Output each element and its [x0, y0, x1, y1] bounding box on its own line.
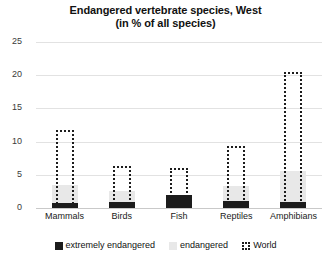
bar-world: [284, 72, 302, 208]
bar-group: [36, 42, 93, 208]
legend-label: World: [253, 240, 276, 251]
bar-extremely-endangered: [166, 195, 192, 208]
bar-group: [93, 42, 150, 208]
x-label-amphibians: Amphibians: [265, 211, 322, 222]
y-tick-label-10: 10: [0, 137, 22, 146]
gridline-0: [36, 208, 322, 209]
bar-world: [56, 130, 74, 208]
bar-extremely-endangered: [223, 201, 249, 208]
chart-title: Endangered vertebrate species, West (in …: [0, 4, 331, 30]
x-axis-category-labels: MammalsBirdsFishReptilesAmphibians: [36, 211, 322, 227]
plot-area: 0510152025: [36, 42, 322, 208]
legend-item[interactable]: World: [242, 240, 276, 251]
legend-item[interactable]: extremely endangered: [55, 240, 156, 251]
bar-world: [227, 146, 245, 208]
bar-extremely-endangered: [52, 203, 78, 208]
bar-group: [150, 42, 207, 208]
x-label-reptiles: Reptiles: [208, 211, 265, 222]
x-label-birds: Birds: [93, 211, 150, 222]
bar-extremely-endangered: [109, 202, 135, 208]
x-label-mammals: Mammals: [36, 211, 93, 222]
y-tick-label-15: 15: [0, 103, 22, 112]
legend-swatch-icon: [242, 242, 250, 250]
y-tick-label-25: 25: [0, 37, 22, 46]
chart-title-line-2: (in % of all species): [0, 17, 331, 30]
y-tick-label-5: 5: [0, 170, 22, 179]
chart-container: Endangered vertebrate species, West (in …: [0, 0, 331, 266]
legend-label: endangered: [180, 240, 228, 251]
bar-group: [208, 42, 265, 208]
bar-group: [265, 42, 322, 208]
legend-label: extremely endangered: [66, 240, 156, 251]
legend-swatch-icon: [169, 242, 177, 250]
x-label-fish: Fish: [150, 211, 207, 222]
legend-item[interactable]: endangered: [169, 240, 228, 251]
bar-extremely-endangered: [280, 202, 306, 208]
chart-legend: extremely endangeredendangeredWorld: [0, 240, 331, 251]
chart-title-line-1: Endangered vertebrate species, West: [70, 4, 262, 16]
y-tick-label-0: 0: [0, 203, 22, 212]
legend-swatch-icon: [55, 242, 63, 250]
y-tick-label-20: 20: [0, 70, 22, 79]
